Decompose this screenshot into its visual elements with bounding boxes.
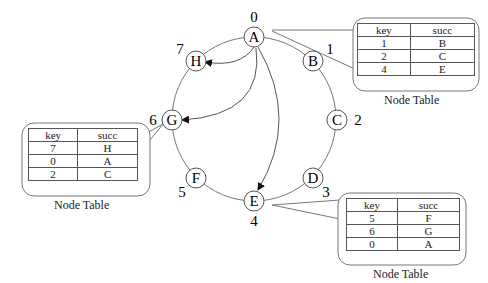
svg-text:F: F: [192, 170, 200, 186]
svg-text:7: 7: [176, 41, 184, 57]
svg-text:1: 1: [326, 41, 334, 57]
table-row: 4E: [358, 63, 475, 76]
svg-text:H: H: [191, 53, 202, 69]
node-h: H 7: [176, 41, 206, 71]
table-row: 6G: [347, 225, 460, 238]
table-row: 0A: [29, 155, 138, 168]
table-caption-e: Node Table: [373, 267, 428, 282]
header-succ: succ: [78, 129, 138, 142]
svg-text:4: 4: [250, 213, 258, 229]
node-d: D 3: [303, 168, 330, 200]
node-f: F 5: [178, 168, 206, 200]
svg-text:A: A: [249, 29, 260, 45]
header-succ: succ: [397, 199, 459, 212]
svg-text:G: G: [167, 112, 178, 128]
callout-pointer-e-lower: [272, 205, 340, 219]
header-key: key: [358, 24, 411, 37]
node-b: B 1: [303, 41, 334, 71]
table-caption-g: Node Table: [54, 198, 109, 213]
header-succ: succ: [410, 24, 474, 37]
node-g: G 6: [149, 110, 182, 130]
table-row: 2C: [29, 168, 138, 181]
table-row: 5F: [347, 212, 460, 225]
table-caption-a: Node Table: [384, 93, 439, 108]
svg-text:3: 3: [322, 184, 330, 200]
svg-text:2: 2: [354, 112, 362, 128]
svg-text:C: C: [332, 112, 342, 128]
table-row: 1B: [358, 37, 475, 50]
table-row: 2C: [358, 50, 475, 63]
svg-text:6: 6: [149, 112, 157, 128]
finger-arrow-a-to-e: [258, 47, 279, 190]
node-table-e: keysucc 5F 6G 0A: [346, 198, 460, 251]
node-c: C 2: [327, 110, 362, 130]
finger-arrow-a-to-h: [205, 47, 254, 63]
node-a: A 0: [244, 9, 264, 47]
svg-text:D: D: [308, 170, 319, 186]
callout-pointer-e: [272, 200, 340, 205]
header-key: key: [347, 199, 398, 212]
svg-text:0: 0: [250, 9, 258, 25]
svg-text:5: 5: [178, 184, 186, 200]
node-table-a: keysucc 1B 2C 4E: [357, 23, 475, 76]
table-row: 7H: [29, 142, 138, 155]
table-row: 0A: [347, 238, 460, 251]
node-table-g: keysucc 7H 0A 2C: [28, 128, 138, 181]
header-key: key: [29, 129, 78, 142]
svg-text:B: B: [308, 53, 318, 69]
svg-text:E: E: [249, 193, 258, 209]
node-e: E 4: [244, 191, 264, 229]
